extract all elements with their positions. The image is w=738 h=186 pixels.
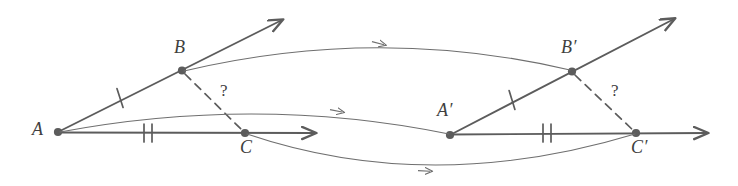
label-question-left: ? — [220, 82, 228, 99]
vertex-B-prime — [568, 67, 576, 75]
geometry-diagram — [0, 0, 738, 186]
vertex-C-prime — [632, 129, 640, 137]
label-question-right: ? — [611, 82, 619, 99]
ray-ApCp — [450, 133, 707, 135]
arrow-B-to-Bprime-head — [372, 42, 384, 45]
label-A-prime: A′ — [437, 101, 453, 119]
label-C-prime: C′ — [631, 138, 648, 156]
figure-canvas: A B C A′ B′ C′ ? ? — [0, 0, 738, 186]
vertex-A-prime — [446, 131, 454, 139]
label-A: A — [32, 120, 43, 138]
label-B-prime: B′ — [561, 38, 577, 56]
segment-BC — [185, 74, 245, 133]
label-B: B — [174, 38, 185, 56]
label-C: C — [240, 138, 252, 156]
ray-AC — [58, 133, 315, 134]
arrow-B-to-Bprime — [184, 48, 570, 71]
arrow-C-to-Cprime — [247, 134, 635, 165]
ray-AB — [58, 20, 282, 132]
segment-BpCp — [575, 75, 636, 133]
vertex-C — [241, 129, 249, 137]
arrow-A-to-Aprime-head — [330, 110, 342, 112]
arrow-A-to-Aprime — [60, 114, 449, 134]
arrow-C-to-Cprime-head — [418, 171, 430, 172]
